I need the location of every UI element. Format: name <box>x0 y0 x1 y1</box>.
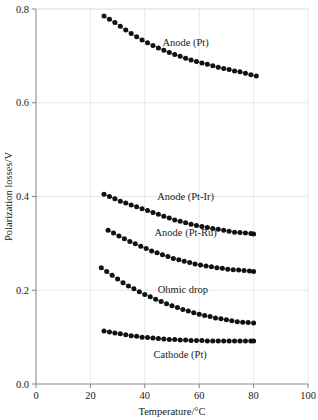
data-point <box>225 267 230 272</box>
data-point <box>191 310 196 315</box>
data-point <box>160 252 165 257</box>
tick-labels: 0204060801000.00.20.40.60.8 <box>16 4 316 401</box>
data-point <box>118 24 123 29</box>
data-point <box>111 231 116 236</box>
data-point <box>176 257 181 262</box>
data-point <box>236 268 241 273</box>
y-axis-title: Polarization losses/V <box>3 152 14 241</box>
data-point <box>186 308 191 313</box>
data-point <box>126 284 131 289</box>
data-point <box>164 301 169 306</box>
y-tick-label: 0.2 <box>16 285 29 296</box>
data-point <box>251 269 256 274</box>
data-point <box>193 262 198 267</box>
data-point <box>205 338 210 343</box>
data-point <box>104 269 109 274</box>
data-point <box>112 196 117 201</box>
data-point <box>216 338 221 343</box>
data-point <box>107 329 112 334</box>
data-point <box>240 320 245 325</box>
data-point <box>137 289 142 294</box>
data-point <box>161 337 166 342</box>
data-point <box>131 286 136 291</box>
data-point <box>231 267 236 272</box>
data-point <box>140 206 145 211</box>
data-point <box>216 65 221 70</box>
data-point <box>227 67 232 72</box>
data-point <box>232 338 237 343</box>
data-point <box>238 230 243 235</box>
data-point <box>134 34 139 39</box>
data-point <box>208 314 213 319</box>
data-point <box>221 338 226 343</box>
data-point <box>251 232 256 237</box>
data-point <box>178 54 183 59</box>
data-point <box>123 201 128 206</box>
data-point <box>197 312 202 317</box>
series-label-3: Ohmic drop <box>158 284 208 295</box>
data-point <box>246 320 251 325</box>
data-point <box>116 233 121 238</box>
data-point <box>210 338 215 343</box>
data-point <box>187 260 192 265</box>
data-point <box>183 337 188 342</box>
data-point <box>149 248 154 253</box>
data-point <box>167 216 172 221</box>
y-tick-label: 0.4 <box>16 191 30 202</box>
data-point <box>159 299 164 304</box>
data-point <box>175 305 180 310</box>
data-point <box>118 199 123 204</box>
data-point <box>214 265 219 270</box>
data-point <box>254 74 259 79</box>
data-point <box>112 20 117 25</box>
data-point <box>229 318 234 323</box>
chart-container: 0204060801000.00.20.40.60.8 Anode (Pt)An… <box>0 0 318 420</box>
data-point <box>194 338 199 343</box>
data-point <box>221 228 226 233</box>
data-point <box>218 316 223 321</box>
data-point <box>115 277 120 282</box>
data-point <box>251 321 256 326</box>
data-point <box>227 338 232 343</box>
data-point <box>183 220 188 225</box>
data-point <box>102 329 107 334</box>
polarization-losses-chart: 0204060801000.00.20.40.60.8 Anode (Pt)An… <box>0 0 318 420</box>
data-point <box>220 266 225 271</box>
data-point <box>202 313 207 318</box>
data-point <box>235 319 240 324</box>
data-point <box>243 338 248 343</box>
data-point <box>204 263 209 268</box>
data-point <box>172 337 177 342</box>
data-point <box>99 265 104 270</box>
data-point <box>178 337 183 342</box>
data-point <box>238 338 243 343</box>
data-point <box>122 236 127 241</box>
data-point <box>167 50 172 55</box>
data-point <box>107 194 112 199</box>
data-point <box>248 72 253 77</box>
y-tick-label: 0.8 <box>16 4 29 15</box>
data-point <box>102 192 107 197</box>
data-point <box>183 56 188 61</box>
data-point <box>198 262 203 267</box>
data-point <box>145 208 150 213</box>
data-point <box>172 52 177 57</box>
series-label-1: Anode (Pt-Ir) <box>157 191 214 203</box>
data-point <box>138 244 143 249</box>
data-point <box>145 40 150 45</box>
data-point <box>238 69 243 74</box>
data-point <box>156 212 161 217</box>
data-point <box>182 259 187 264</box>
data-point <box>213 315 218 320</box>
series-connector <box>101 268 253 323</box>
data-point <box>194 59 199 64</box>
data-point <box>205 62 210 67</box>
data-point <box>209 264 214 269</box>
data-series <box>99 265 256 325</box>
data-point <box>178 219 183 224</box>
x-axis-title: Temperature/°C <box>138 406 205 417</box>
data-point <box>107 17 112 22</box>
data-point <box>148 294 153 299</box>
y-tick-label: 0.6 <box>16 97 29 108</box>
data-point <box>251 338 256 343</box>
